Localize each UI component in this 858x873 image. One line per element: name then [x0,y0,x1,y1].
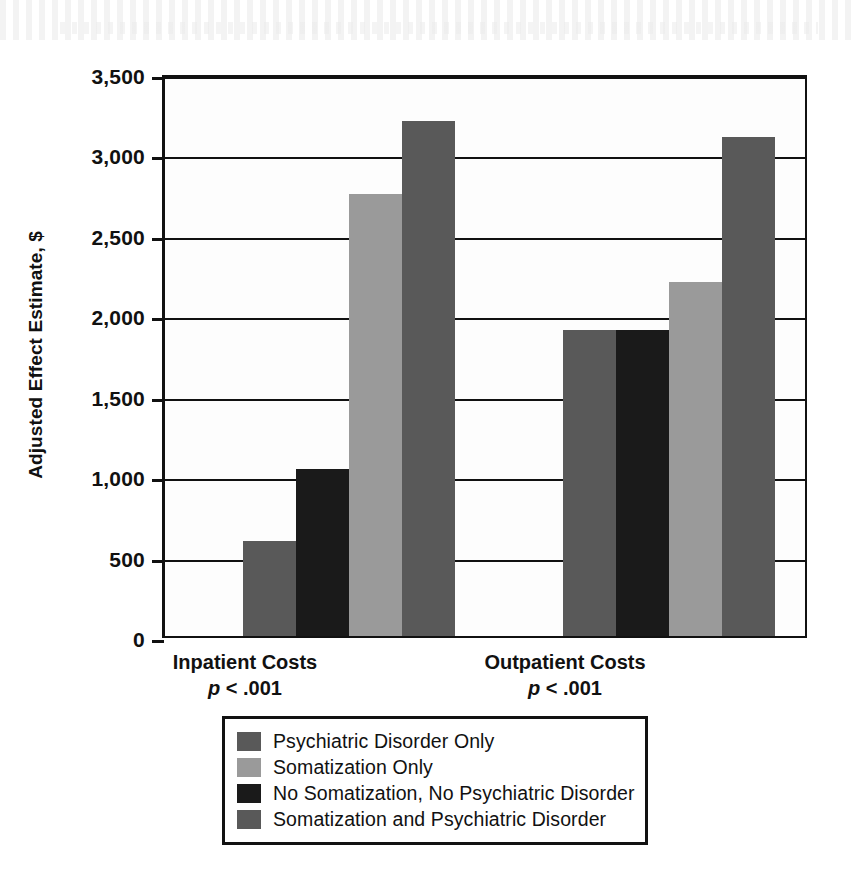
bar [722,137,775,636]
legend-swatch-icon [237,810,261,829]
legend-label: Somatization and Psychiatric Disorder [273,808,606,831]
y-axis-title: Adjusted Effect Estimate, $ [25,231,47,479]
y-tick-label: 3,500 [91,65,145,89]
legend-swatch-icon [237,758,261,777]
y-tick-label: 1,500 [91,387,145,411]
legend-item: Somatization Only [237,754,635,780]
bar [616,330,669,636]
y-tick-mark [152,318,164,321]
y-tick-mark [152,640,164,643]
x-axis-group-name-0: Inpatient Costs [173,651,317,673]
bar [563,330,616,636]
y-tick-label: 0 [133,628,145,652]
legend-label: Psychiatric Disorder Only [273,730,494,753]
x-axis-group-pvalue-1: p < .001 [435,676,695,702]
legend-item: Psychiatric Disorder Only [237,728,635,754]
y-tick-label: 2,500 [91,226,145,250]
y-tick-mark [152,77,164,80]
bar [349,194,402,636]
x-axis-group-pvalue-0: p < .001 [115,676,375,702]
y-tick-label: 1,000 [91,467,145,491]
legend-swatch-icon [237,732,261,751]
x-axis-group-name-1: Outpatient Costs [484,651,645,673]
legend-label: Somatization Only [273,756,433,779]
legend-swatch-icon [237,784,261,803]
bar-group-outpatient [563,77,775,636]
legend-item: No Somatization, No Psychiatric Disorder [237,780,635,806]
y-tick-mark [152,238,164,241]
bar [296,469,349,636]
y-tick-mark [152,157,164,160]
y-tick-label: 2,000 [91,306,145,330]
plot-wrapper: 3,5003,0002,5002,0001,5001,0005000 [162,75,807,638]
plot-area: 3,5003,0002,5002,0001,5001,0005000 [162,75,807,638]
chart-legend: Psychiatric Disorder OnlySomatization On… [222,716,648,845]
y-tick-label: 3,000 [91,145,145,169]
y-tick-mark [152,399,164,402]
x-axis-group-label-1: Outpatient Costs p < .001 [435,650,695,701]
bar [402,121,455,636]
legend-label: No Somatization, No Psychiatric Disorder [273,782,635,805]
bar-chart-figure: Adjusted Effect Estimate, $ 3,5003,0002,… [0,0,858,873]
bar-group-inpatient [243,77,455,636]
x-axis-group-label-0: Inpatient Costs p < .001 [115,650,375,701]
y-tick-label: 500 [109,548,145,572]
y-tick-mark [152,479,164,482]
legend-item: Somatization and Psychiatric Disorder [237,806,635,832]
bar [243,541,296,636]
y-tick-mark [152,560,164,563]
bar [669,282,722,636]
